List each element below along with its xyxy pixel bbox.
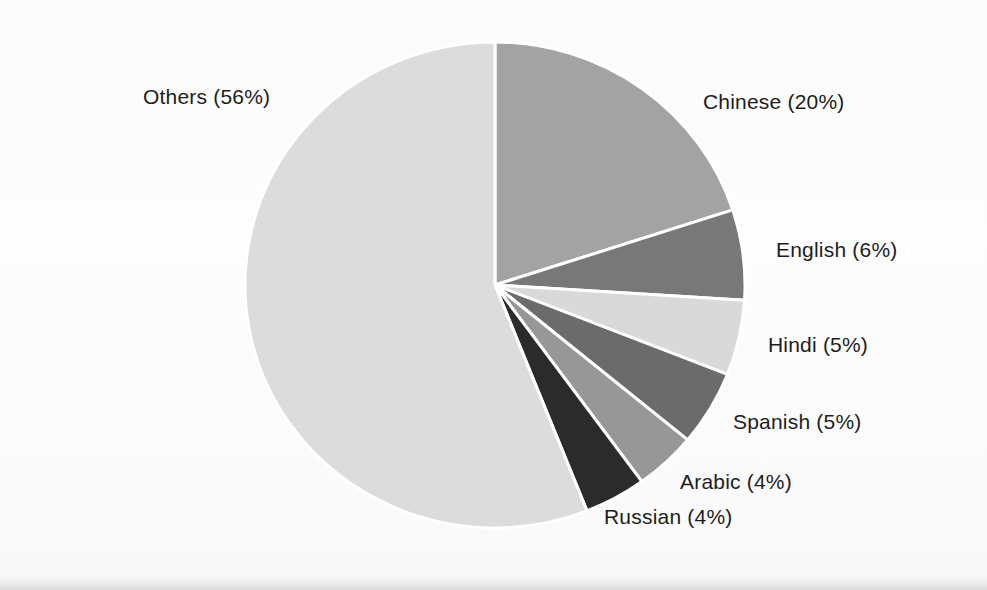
slice-label-others: Others (56%) <box>143 85 270 109</box>
pie-chart: Others (56%) Chinese (20%) English (6%) … <box>0 0 987 590</box>
pie-slice-group <box>245 42 745 528</box>
slice-label-arabic: Arabic (4%) <box>680 470 792 494</box>
slice-label-spanish: Spanish (5%) <box>733 410 861 434</box>
slice-label-russian: Russian (4%) <box>604 505 732 529</box>
slice-label-chinese: Chinese (20%) <box>703 90 845 114</box>
slice-label-english: English (6%) <box>776 238 897 262</box>
slice-label-hindi: Hindi (5%) <box>768 333 868 357</box>
chart-page: Others (56%) Chinese (20%) English (6%) … <box>0 0 987 590</box>
